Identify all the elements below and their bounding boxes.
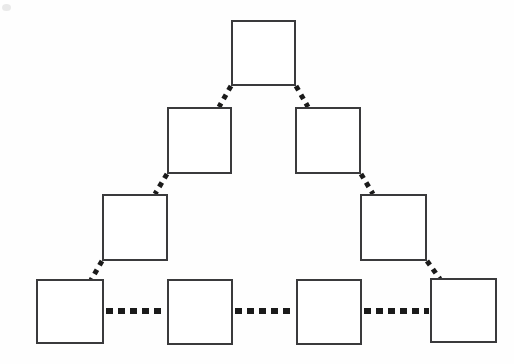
scan-artifact-speck	[2, 4, 11, 11]
node-label	[432, 280, 495, 341]
node-label	[169, 281, 231, 343]
node-label	[169, 109, 230, 172]
node-box[interactable]	[295, 107, 361, 174]
node-label	[362, 196, 425, 259]
node-label	[297, 109, 359, 172]
node-label	[298, 281, 360, 343]
node-box[interactable]	[296, 279, 362, 345]
connector-dashed-diagonal	[361, 174, 373, 194]
node-label	[104, 196, 166, 259]
node-box[interactable]	[167, 279, 233, 345]
node-label	[38, 281, 102, 342]
node-box[interactable]	[231, 20, 296, 86]
node-box[interactable]	[36, 279, 104, 344]
connector-dashed-diagonal	[219, 86, 231, 107]
node-box[interactable]	[167, 107, 232, 174]
diagram-canvas	[0, 0, 514, 364]
connector-dashed-diagonal	[155, 174, 167, 194]
node-label	[233, 22, 294, 84]
connector-dashed-diagonal	[427, 261, 440, 279]
node-box[interactable]	[360, 194, 427, 261]
node-box[interactable]	[430, 278, 497, 343]
connector-dashed-diagonal	[91, 261, 102, 280]
connector-dashed-diagonal	[296, 86, 308, 107]
node-box[interactable]	[102, 194, 168, 261]
